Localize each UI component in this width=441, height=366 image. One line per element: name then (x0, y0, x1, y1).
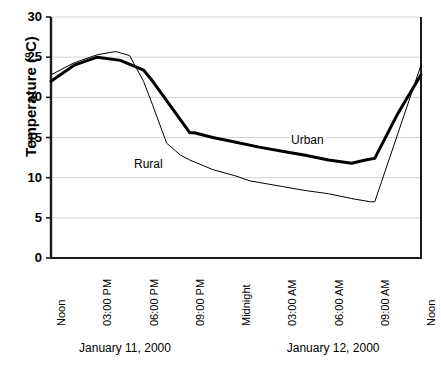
x-axis-tick-label: Midnight (241, 284, 252, 326)
gridlines (46, 17, 421, 258)
y-axis-tick-label: 25 (14, 50, 42, 63)
x-axis-tick-label: 09:00 PM (195, 279, 206, 326)
y-axis-tick-label: 5 (14, 211, 42, 224)
x-axis-tick-label: 03:00 AM (287, 280, 298, 326)
date-group-label: January 12, 2000 (278, 342, 388, 354)
x-axis-tick-label: 06:00 AM (334, 280, 345, 326)
x-axis-tick-label: 03:00 PM (102, 279, 113, 326)
series-annotation-urban: Urban (289, 134, 326, 146)
series-lines (51, 52, 421, 202)
series-annotation-rural: Rural (132, 158, 165, 170)
y-axis-tick-label: 15 (14, 131, 42, 144)
y-axis-tick-label: 20 (14, 90, 42, 103)
date-group-label: January 11, 2000 (70, 342, 180, 354)
y-axis-tick-label: 30 (14, 10, 42, 23)
y-axis-tick-label: 10 (14, 171, 42, 184)
series-line-urban (51, 57, 421, 163)
y-axis-tick-label: 0 (14, 251, 42, 264)
temperature-line-chart: Temperature (°C) 051015202530 Noon03:00 … (0, 0, 441, 366)
x-axis-tick-label: 06:00 PM (149, 279, 160, 326)
x-axis-tick-label: Noon (426, 300, 437, 326)
x-axis-tick-label: 09:00 AM (380, 280, 391, 326)
x-axis-tick-label: Noon (56, 300, 67, 326)
series-line-rural (51, 52, 421, 202)
